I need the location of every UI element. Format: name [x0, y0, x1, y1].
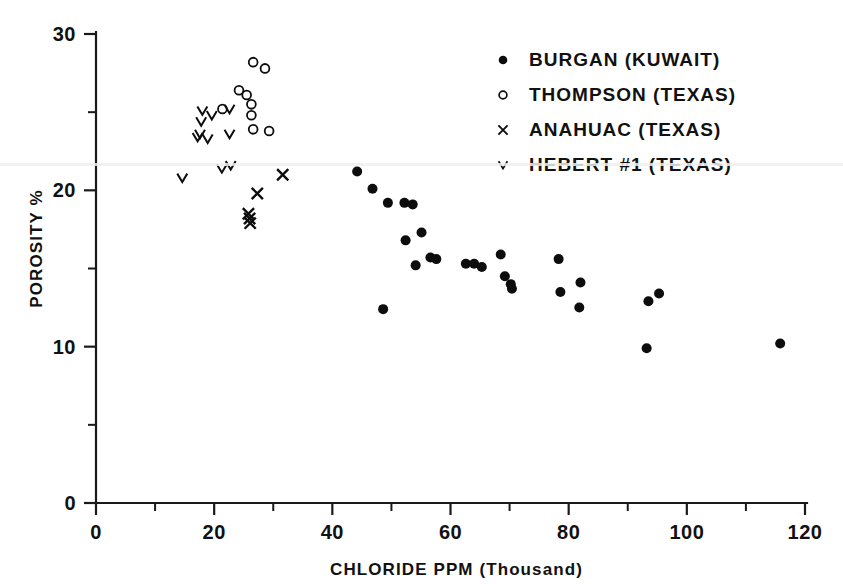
point-filled-dot	[352, 167, 362, 177]
y-axis-title: POROSITY %	[27, 189, 46, 307]
point-filled-dot	[368, 184, 378, 194]
legend-item-label: HEBERT #1 (TEXAS)	[529, 154, 732, 175]
x-tick-label: 100	[669, 521, 704, 543]
point-filled-dot	[555, 287, 565, 297]
point-filled-dot	[401, 235, 411, 245]
x-tick-label: 20	[203, 521, 226, 543]
open-circle-icon	[499, 91, 507, 99]
x-tick-label: 80	[557, 521, 580, 543]
point-cross-x	[252, 188, 263, 199]
point-filled-dot	[575, 278, 585, 288]
point-filled-dot	[654, 289, 664, 299]
legend-item-label: THOMPSON (TEXAS)	[529, 84, 736, 105]
legend-item[interactable]: ANAHUAC (TEXAS)	[498, 119, 721, 140]
x-tick-label: 40	[321, 521, 344, 543]
legend-item[interactable]: HEBERT #1 (TEXAS)	[499, 154, 732, 175]
series-2	[218, 58, 273, 136]
point-filled-dot	[642, 343, 652, 353]
legend-item[interactable]: THOMPSON (TEXAS)	[499, 84, 736, 105]
axis-titles-group: CHLORIDE PPM (Thousand)POROSITY %	[27, 189, 583, 579]
series-3	[243, 169, 288, 229]
vee-icon	[499, 161, 508, 168]
point-filled-dot	[477, 262, 487, 272]
point-vee	[207, 111, 217, 119]
point-vee	[197, 106, 207, 114]
filled-dot-icon	[499, 56, 508, 65]
point-filled-dot	[408, 199, 418, 209]
point-open-circle	[247, 111, 256, 120]
y-tick-label: 30	[53, 23, 76, 45]
y-tick-label: 20	[53, 179, 76, 201]
point-filled-dot	[574, 303, 584, 313]
x-tick-label: 60	[439, 521, 462, 543]
point-filled-dot	[507, 284, 517, 294]
series-4	[177, 105, 235, 182]
scatter-chart: 0204060801001200102030 BURGAN (KUWAIT)TH…	[0, 0, 843, 584]
y-tick-label: 0	[64, 492, 76, 514]
point-filled-dot	[399, 198, 409, 208]
point-vee	[177, 174, 187, 182]
point-filled-dot	[417, 228, 427, 238]
point-open-circle	[242, 91, 251, 100]
y-tick-label: 10	[53, 336, 76, 358]
point-filled-dot	[383, 198, 393, 208]
point-vee	[196, 117, 206, 125]
legend-item[interactable]: BURGAN (KUWAIT)	[499, 49, 721, 70]
point-filled-dot	[411, 260, 421, 270]
point-vee	[225, 130, 235, 138]
point-filled-dot	[643, 296, 653, 306]
point-open-circle	[247, 100, 256, 109]
point-filled-dot	[554, 254, 564, 264]
point-open-circle	[249, 125, 258, 134]
point-filled-dot	[431, 254, 441, 264]
legend: BURGAN (KUWAIT)THOMPSON (TEXAS)ANAHUAC (…	[498, 49, 736, 175]
plot-svg: 0204060801001200102030 BURGAN (KUWAIT)TH…	[0, 0, 843, 584]
cross-x-icon	[498, 125, 507, 134]
point-open-circle	[261, 64, 270, 73]
point-open-circle	[249, 58, 258, 67]
x-axis-title: CHLORIDE PPM (Thousand)	[330, 560, 583, 579]
point-filled-dot	[775, 339, 785, 349]
series-1	[352, 167, 785, 354]
point-filled-dot	[496, 249, 506, 259]
point-vee	[203, 135, 213, 143]
point-cross-x	[277, 169, 288, 180]
legend-item-label: BURGAN (KUWAIT)	[529, 49, 720, 70]
x-tick-label: 120	[788, 521, 823, 543]
x-tick-label: 0	[90, 521, 102, 543]
legend-item-label: ANAHUAC (TEXAS)	[529, 119, 721, 140]
point-open-circle	[265, 127, 274, 136]
point-filled-dot	[378, 304, 388, 314]
point-vee	[217, 164, 227, 172]
